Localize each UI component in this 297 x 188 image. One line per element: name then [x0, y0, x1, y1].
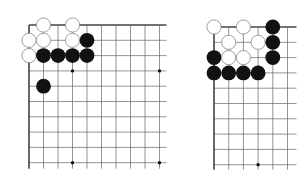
black-stone: [207, 50, 222, 65]
go-board-left: [22, 18, 167, 169]
black-stone: [36, 48, 51, 63]
white-stone: [36, 18, 50, 32]
black-stone: [207, 66, 222, 81]
black-stone: [265, 50, 280, 65]
star-point: [256, 163, 259, 166]
black-stone: [265, 35, 280, 50]
white-stone: [236, 20, 250, 34]
go-diagrams: [0, 0, 297, 188]
star-point: [71, 69, 74, 72]
black-stone: [265, 20, 280, 35]
white-stone: [222, 35, 236, 49]
black-stone: [65, 48, 80, 63]
white-stone: [65, 33, 79, 47]
grid-lines: [29, 25, 167, 169]
white-stone: [22, 49, 36, 63]
white-stone: [22, 33, 36, 47]
black-stone: [251, 66, 266, 81]
white-stone: [65, 18, 79, 32]
black-stone: [80, 33, 95, 48]
black-stone: [36, 79, 51, 94]
black-stone: [80, 48, 95, 63]
white-stone: [222, 51, 236, 65]
white-stone: [236, 51, 250, 65]
star-point: [158, 161, 161, 164]
black-stone: [51, 48, 66, 63]
black-stone: [236, 66, 251, 81]
white-stone: [207, 20, 221, 34]
star-point: [71, 161, 74, 164]
white-stone: [251, 35, 265, 49]
black-stone: [221, 66, 236, 81]
white-stone: [36, 33, 50, 47]
go-board-right: [207, 20, 297, 170]
star-point: [158, 69, 161, 72]
